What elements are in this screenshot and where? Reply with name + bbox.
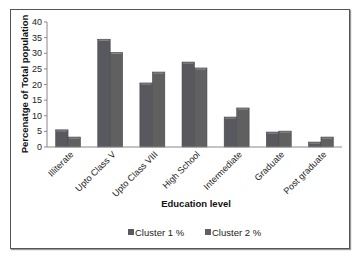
x-axis-title: Education level — [161, 198, 231, 209]
legend-item: Cluster 2 % — [205, 227, 262, 238]
y-tick-label: 15 — [32, 95, 42, 105]
legend-swatch-icon — [205, 229, 211, 235]
bar — [182, 62, 195, 147]
y-tick-label: 40 — [32, 17, 42, 27]
y-tick-label: 0 — [37, 142, 42, 152]
y-axis: 0510152025303540 — [32, 17, 47, 152]
bar — [321, 137, 334, 147]
bar — [195, 68, 208, 147]
x-axis: IlliterateUpto Class VUpto Class VIIIHig… — [46, 147, 342, 199]
bar — [308, 142, 321, 147]
legend: Cluster 1 %Cluster 2 % — [128, 227, 262, 238]
y-tick-label: 30 — [32, 48, 42, 58]
bar — [152, 72, 165, 147]
x-tick-label: Post graduate — [282, 149, 329, 196]
x-tick-label: High School — [161, 149, 202, 190]
bar — [237, 108, 250, 147]
legend-swatch-icon — [128, 229, 134, 235]
bar — [56, 130, 68, 147]
bar — [266, 132, 279, 147]
bar — [224, 117, 237, 147]
legend-item: Cluster 1 % — [128, 227, 185, 238]
y-tick-label: 20 — [32, 80, 42, 90]
y-tick-label: 25 — [32, 64, 42, 74]
x-tick-label: Illiterate — [46, 149, 75, 178]
y-axis-title: Percenatge of Total population — [19, 14, 30, 153]
y-tick-label: 35 — [32, 33, 42, 43]
bar — [140, 83, 153, 147]
bars — [56, 39, 334, 147]
bar — [98, 39, 111, 147]
x-tick-label: Upto Class VIII — [110, 149, 160, 199]
bar — [110, 52, 123, 147]
y-tick-label: 5 — [37, 126, 42, 136]
legend-label: Cluster 1 % — [135, 227, 185, 238]
legend-label: Cluster 2 % — [212, 227, 262, 238]
bar — [68, 137, 81, 147]
x-tick-label: Upto Class V — [73, 149, 117, 193]
bar — [279, 131, 292, 147]
x-tick-label: Graduate — [253, 149, 287, 183]
bar-chart: 0510152025303540 IlliterateUpto Class VU… — [0, 0, 358, 260]
x-tick-label: Intermediate — [202, 149, 244, 191]
y-tick-label: 10 — [32, 111, 42, 121]
